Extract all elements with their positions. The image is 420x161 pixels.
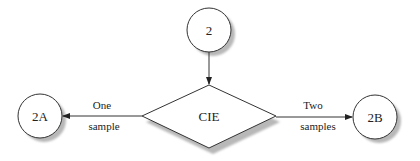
node-2b-label: 2B <box>367 110 383 125</box>
flowchart-canvas: One sample Two samples 2 CIE 2A 2B <box>0 0 420 161</box>
node-cie-label: CIE <box>199 109 220 124</box>
edge-label-samples: samples <box>300 120 335 132</box>
edge-cie-to-2a: One sample <box>63 99 142 132</box>
node-2a: 2A <box>18 94 62 138</box>
node-2: 2 <box>187 8 231 52</box>
edge-label-sample: sample <box>88 120 119 132</box>
node-2-label: 2 <box>206 23 213 38</box>
edge-label-one: One <box>93 99 111 111</box>
node-2b: 2B <box>353 95 397 139</box>
node-2a-label: 2A <box>32 109 49 124</box>
edge-label-two: Two <box>303 99 323 111</box>
edge-cie-to-2b: Two samples <box>276 99 352 132</box>
node-cie-decision: CIE <box>142 85 276 148</box>
